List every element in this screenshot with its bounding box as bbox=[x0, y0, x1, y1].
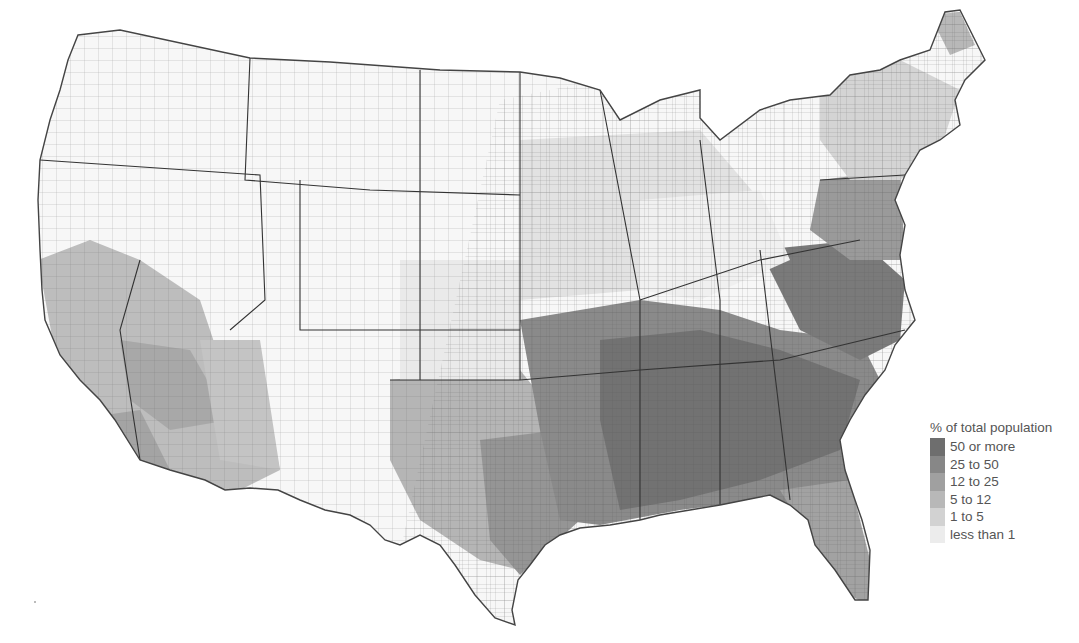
county-fills bbox=[0, 0, 1079, 643]
legend-item: 1 to 5 bbox=[930, 508, 1079, 526]
legend-swatch bbox=[930, 438, 945, 456]
legend-label: 50 or more bbox=[950, 439, 1015, 454]
artifact-dot bbox=[34, 601, 36, 603]
us-county-map bbox=[0, 0, 1079, 643]
legend-item: 25 to 50 bbox=[930, 456, 1079, 474]
legend-item: 50 or more bbox=[930, 438, 1079, 456]
legend-swatch bbox=[930, 508, 945, 526]
legend-label: 12 to 25 bbox=[950, 474, 999, 489]
legend-item: less than 1 bbox=[930, 526, 1079, 544]
legend-label: 25 to 50 bbox=[950, 457, 999, 472]
legend-swatch bbox=[930, 456, 945, 474]
legend-label: 1 to 5 bbox=[950, 509, 984, 524]
legend-label: 5 to 12 bbox=[950, 492, 991, 507]
legend-item: 5 to 12 bbox=[930, 491, 1079, 509]
legend-title: % of total population bbox=[930, 420, 1079, 436]
legend-item: 12 to 25 bbox=[930, 473, 1079, 491]
legend-swatch bbox=[930, 526, 945, 544]
legend-label: less than 1 bbox=[950, 527, 1015, 542]
legend-swatch bbox=[930, 491, 945, 509]
map-legend: % of total population 50 or more 25 to 5… bbox=[930, 420, 1079, 543]
legend-swatch bbox=[930, 473, 945, 491]
